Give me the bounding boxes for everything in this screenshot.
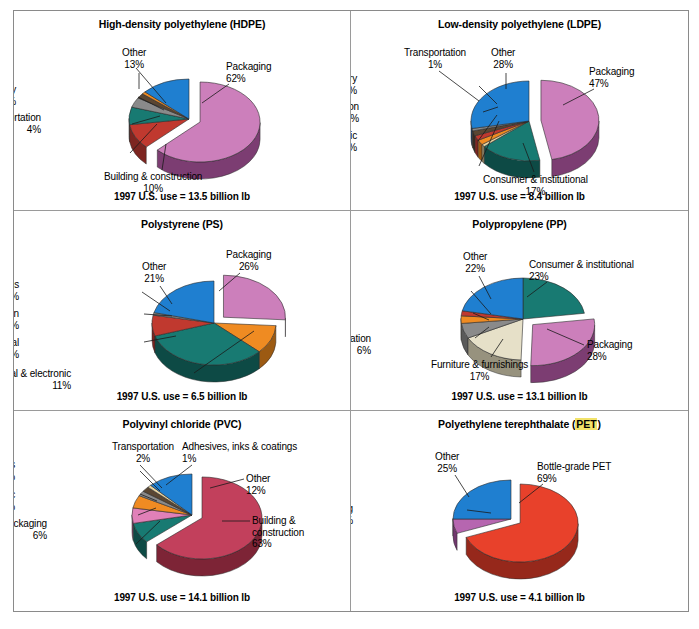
slice-label-furniture: Furniture & furnishings1%	[14, 279, 19, 302]
slice-label-text: Other	[463, 251, 487, 262]
panel-ps: Polystyrene (PS) Packaging26%Other21%Fur…	[14, 211, 351, 411]
slice-label-pct: 2%	[14, 471, 15, 483]
slice-label-pct: 1%	[182, 453, 297, 465]
slice-label-building: Building & construction2%	[351, 101, 359, 124]
slice-label-text: Packaging	[226, 61, 271, 72]
slice-label-packaging: Packaging6%	[14, 518, 47, 541]
slice-label-pct: 13%	[122, 59, 146, 71]
slice-label-text: Packaging	[14, 518, 47, 529]
slice-label-text: Electrical & electronic	[14, 489, 15, 500]
slice-label-pct: 28%	[491, 59, 515, 71]
slice-label-pct: 12%	[246, 485, 270, 497]
panel-footer-ldpe: 1997 U.S. use = 8.4 billion lb	[351, 191, 688, 202]
panel-pvc: Polyvinyl chloride (PVC) Transportation2…	[14, 411, 351, 611]
pie-slice-packaging[interactable]	[223, 275, 285, 320]
slice-label-bottle: Bottle-grade PET69%	[537, 461, 611, 484]
slice-label-furniture: Furniture & furnishings17%	[431, 359, 528, 382]
slice-label-text: Packaging	[587, 339, 632, 350]
slice-label-text: Building & construction	[351, 101, 359, 112]
slice-label-transportation: Transportation6%	[351, 333, 371, 356]
slice-label-consumer: Consumer & institutional23%	[529, 259, 634, 282]
panel-footer-pp: 1997 U.S. use = 13.1 billion lb	[351, 391, 688, 402]
slice-label-packaging: Packaging62%	[226, 61, 271, 84]
leader-line-other	[455, 475, 469, 497]
slice-label-pct: 2%	[351, 113, 359, 125]
slice-label-pct: 5%	[14, 501, 15, 513]
slice-label-pct: 4%	[14, 124, 41, 136]
slice-label-text: Transportation	[351, 333, 371, 344]
pie-chart-hdpe: Other13%Packaging62%Electrical & electro…	[14, 11, 350, 210]
slice-label-other: Other21%	[142, 261, 166, 284]
slice-label-text: Furniture & furnishings	[14, 279, 19, 290]
slice-label-adhesives: Adhesives, inks & coatings1%	[182, 441, 297, 464]
slice-label-pct: 6%	[351, 515, 353, 527]
slice-label-industrial: Industrial & machinery2%	[351, 73, 357, 96]
slice-label-pct: 21%	[142, 273, 166, 285]
slice-label-packaging: Packaging47%	[589, 66, 634, 89]
slice-label-building: Building & construction8%	[14, 308, 19, 331]
slice-label-text: Furniture & furnishings	[14, 459, 15, 470]
slice-label-building: Building &construction63%	[252, 515, 304, 550]
slice-label-text: Other	[491, 47, 515, 58]
slice-label-other_pack: Other packaging6%	[351, 503, 353, 526]
panel-ldpe: Low-density polyethylene (LDPE) Transpor…	[351, 11, 688, 211]
slice-label-pct: 47%	[589, 78, 634, 90]
slice-label-text: Other packaging	[351, 503, 353, 514]
panel-footer-pet: 1997 U.S. use = 4.1 billion lb	[351, 592, 688, 603]
pie-tops-hdpe	[129, 79, 260, 162]
panel-hdpe: High-density polyethylene (HDPE) Other13…	[14, 11, 351, 211]
slice-label-industrial: Industrial & machinery2%	[14, 84, 16, 107]
slice-label-pct: 17%	[431, 371, 528, 383]
slice-label-pct: construction	[252, 527, 304, 539]
slice-label-text: Building & construction	[14, 308, 19, 319]
slice-label-text: Transportation	[14, 112, 41, 123]
slice-label-electrical: Electrical & electronic11%	[14, 368, 71, 391]
slice-label-text: Consumer & institutional	[483, 174, 588, 185]
slice-label-text: Building & construction	[104, 171, 202, 182]
slice-label-transportation: Transportation4%	[14, 112, 41, 135]
pie-chart-ldpe: Transportation1%Other28%Packaging47%Indu…	[351, 11, 688, 210]
slice-label-pct: 62%	[226, 73, 271, 85]
slice-label-electrical: Electrical & electronic5%	[14, 489, 15, 512]
slice-label-pct: 22%	[463, 263, 487, 275]
panel-footer-pvc: 1997 U.S. use = 14.1 billion lb	[14, 592, 350, 603]
slice-label-packaging: Packaging26%	[226, 249, 271, 272]
pie-slice-consumer[interactable]	[523, 278, 584, 319]
pie-tops-pvc	[132, 474, 262, 559]
slice-label-text: Packaging	[226, 249, 271, 260]
slice-label-text: Electrical & electronic	[351, 130, 357, 141]
slice-label-pct: 2%	[351, 142, 357, 154]
pie-chart-pvc: Transportation2%Adhesives, inks & coatin…	[14, 411, 350, 611]
slice-label-pct: 26%	[226, 261, 271, 273]
slice-label-pct: 28%	[587, 351, 632, 363]
slice-label-text: Electrical & electronic	[14, 368, 71, 379]
pie-slice-other[interactable]	[471, 81, 529, 128]
leader-line-transportation	[140, 465, 162, 488]
slice-label-pct: 23%	[529, 271, 634, 283]
panel-pet: Polyethylene terephthalate (PET) Other25…	[351, 411, 688, 611]
leader-line-transportation	[439, 71, 479, 101]
slice-label-pct: 11%	[14, 380, 71, 392]
slice-label-text: Adhesives, inks & coatings	[182, 441, 297, 452]
panel-pp: Polypropylene (PP) Other22%Consumer & in…	[351, 211, 688, 411]
slice-label-electrical: Electrical & electronic2%	[351, 130, 357, 153]
slice-label-transportation: Transportation1%	[404, 47, 466, 70]
slice-label-pct: 6%	[351, 345, 371, 357]
slice-label-pct: 25%	[435, 463, 459, 475]
pie-svg-pet	[351, 411, 688, 611]
slice-label-text: Consumer & institutional	[14, 337, 19, 348]
slice-label-text: Transportation	[112, 441, 174, 452]
slice-label-text: Other	[246, 473, 270, 484]
slice-label-text: Furniture & furnishings	[431, 359, 528, 370]
slice-label-other: Other28%	[491, 47, 515, 70]
slice-label-furniture: Furniture & furnishings2%	[14, 459, 15, 482]
slice-label-text: Bottle-grade PET	[537, 461, 611, 472]
pie-chart-pet: Other25%Bottle-grade PET69%Other packagi…	[351, 411, 688, 611]
slice-label-other: Other22%	[463, 251, 487, 274]
slice-label-pct: 33%	[14, 349, 19, 361]
slice-label-text: Other	[435, 451, 459, 462]
pie-tops-ldpe	[471, 80, 599, 161]
slice-label-text: Industrial & machinery	[14, 84, 16, 95]
slice-label-text: Transportation	[404, 47, 466, 58]
pie-chart-pp: Other22%Consumer & institutional23%Build…	[351, 211, 688, 410]
